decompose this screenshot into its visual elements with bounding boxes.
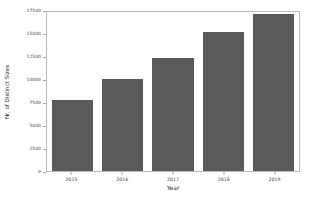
x-tick-mark [122, 172, 123, 175]
bar-slot [249, 12, 299, 171]
plot-area [46, 11, 300, 172]
x-tick-label: 2017 [148, 176, 199, 183]
x-tick-mark [172, 172, 173, 175]
x-tick-label: 2016 [97, 176, 148, 183]
bar-slot [47, 12, 97, 171]
x-tick-mark [223, 172, 224, 175]
bar-chart-figure: Nr. of Distinct Sizes 025005000750010000… [0, 0, 321, 197]
bar[interactable] [52, 100, 93, 171]
bar-slot [148, 12, 198, 171]
y-tick-label: 10000 [27, 76, 41, 84]
bar-series [47, 12, 299, 171]
x-tick-label: 2018 [198, 176, 249, 183]
y-tick-label: 5000 [29, 122, 41, 130]
y-axis-ticks: 025005000750010000125001500017500 [0, 11, 46, 172]
y-tick-label: 15000 [27, 30, 41, 38]
bar[interactable] [253, 14, 294, 171]
x-tick-mark [71, 172, 72, 175]
bar[interactable] [152, 58, 193, 171]
bar[interactable] [102, 79, 143, 171]
bar-slot [97, 12, 147, 171]
bar[interactable] [203, 32, 244, 171]
x-tick-label: 2019 [249, 176, 300, 183]
bar-slot [198, 12, 248, 171]
x-tick-label: 2015 [46, 176, 97, 183]
y-tick-label: 0 [38, 168, 41, 176]
y-tick-label: 12500 [27, 53, 41, 61]
y-tick-label: 17500 [27, 7, 41, 15]
y-tick-label: 7500 [29, 99, 41, 107]
x-tick-mark [274, 172, 275, 175]
x-axis-title: Year [46, 184, 300, 192]
y-tick-label: 2500 [29, 145, 41, 153]
